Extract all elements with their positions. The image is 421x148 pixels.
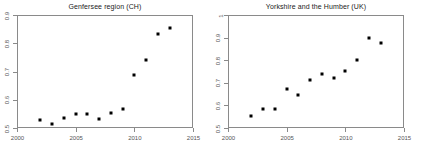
y-axis-tick-right: 0.6 — [224, 105, 228, 106]
data-point — [250, 115, 253, 118]
y-axis-tick-label-right: 0.6 — [215, 102, 221, 110]
x-axis-tick-left: 2000 — [17, 128, 18, 132]
data-point — [133, 73, 136, 76]
chart-title-left: Genfersee region (CH) — [0, 3, 210, 10]
x-axis-tick-label-right: 2010 — [339, 135, 352, 141]
y-axis-tick-label-left: 0.8 — [4, 40, 10, 48]
x-axis-tick-label-left: 2000 — [11, 135, 24, 141]
plot-frame-left — [17, 15, 193, 128]
data-point — [98, 118, 101, 121]
chart-panel-right: Yorkshire and the Humber (UK) 0.50.60.70… — [211, 0, 421, 148]
plot-area-right: 0.50.60.70.80.912000200520102015 — [228, 15, 404, 128]
y-axis-tick-label-left: 0.7 — [4, 68, 10, 76]
chart-panel-left: Genfersee region (CH) 0.50.60.70.80.9200… — [0, 0, 210, 148]
y-axis-tick-label-left: 0.6 — [4, 96, 10, 104]
chart-title-right: Yorkshire and the Humber (UK) — [211, 3, 421, 10]
x-axis-tick-label-right: 2000 — [222, 135, 235, 141]
x-axis-tick-right: 2010 — [345, 128, 346, 132]
plot-area-left: 0.50.60.70.80.92000200520102015 — [17, 15, 193, 128]
y-axis-tick-right: 0.7 — [224, 83, 228, 84]
y-axis-tick-label-right: 0.5 — [215, 124, 221, 132]
x-axis-tick-left: 2015 — [193, 128, 194, 132]
data-point — [309, 79, 312, 82]
data-point — [379, 41, 382, 44]
data-point — [74, 113, 77, 116]
y-axis-tick-left: 0.6 — [13, 100, 17, 101]
x-axis-tick-label-left: 2005 — [69, 135, 82, 141]
data-point — [145, 59, 148, 62]
figure-canvas: Genfersee region (CH) 0.50.60.70.80.9200… — [0, 0, 421, 148]
y-axis-tick-label-left: 0.5 — [4, 124, 10, 132]
data-point — [320, 72, 323, 75]
y-axis-tick-label-left: 0.9 — [4, 11, 10, 19]
x-axis-tick-right: 2005 — [287, 128, 288, 132]
y-axis-tick-label-right: 0.7 — [215, 79, 221, 87]
data-point — [62, 116, 65, 119]
x-axis-tick-label-right: 2005 — [280, 135, 293, 141]
x-axis-tick-label-left: 2015 — [187, 135, 200, 141]
plot-frame-right — [228, 15, 404, 128]
data-point — [156, 33, 159, 36]
y-axis-tick-left: 0.9 — [13, 15, 17, 16]
x-axis-tick-right: 2000 — [228, 128, 229, 132]
y-axis-tick-left: 0.7 — [13, 72, 17, 73]
data-point — [367, 37, 370, 40]
data-point — [262, 108, 265, 111]
x-axis-tick-label-right: 2015 — [398, 135, 411, 141]
data-point — [168, 26, 171, 29]
x-axis-tick-left: 2010 — [134, 128, 135, 132]
data-point — [297, 94, 300, 97]
data-point — [121, 108, 124, 111]
x-axis-tick-left: 2005 — [76, 128, 77, 132]
y-axis-tick-label-right: 1 — [217, 14, 223, 17]
x-axis-tick-label-left: 2010 — [128, 135, 141, 141]
data-point — [86, 113, 89, 116]
data-point — [344, 70, 347, 73]
data-point — [285, 87, 288, 90]
data-point — [332, 76, 335, 79]
y-axis-tick-left: 0.8 — [13, 43, 17, 44]
y-axis-tick-label-right: 0.8 — [215, 57, 221, 65]
data-point — [356, 59, 359, 62]
y-axis-tick-right: 0.9 — [224, 38, 228, 39]
y-axis-tick-right: 1 — [224, 15, 228, 16]
data-point — [109, 112, 112, 115]
x-axis-tick-right: 2015 — [404, 128, 405, 132]
data-point — [273, 108, 276, 111]
data-point — [39, 119, 42, 122]
data-point — [51, 122, 54, 125]
y-axis-tick-label-right: 0.9 — [215, 34, 221, 42]
y-axis-tick-right: 0.8 — [224, 60, 228, 61]
